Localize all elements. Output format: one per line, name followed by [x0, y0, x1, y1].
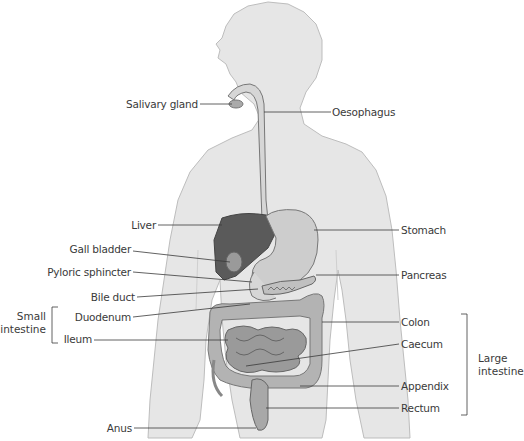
- label-pyloric-sphincter: Pyloric sphincter: [47, 266, 131, 278]
- group-small-intestine: Small intestine: [0, 310, 46, 336]
- label-gall-bladder: Gall bladder: [70, 243, 131, 255]
- label-colon: Colon: [401, 316, 430, 328]
- label-ileum: Ileum: [64, 333, 92, 345]
- group-small-intestine-line1: Small: [0, 310, 46, 323]
- label-rectum: Rectum: [401, 402, 440, 414]
- label-duodenum: Duodenum: [75, 311, 131, 323]
- label-bile-duct: Bile duct: [91, 291, 135, 303]
- group-small-intestine-line2: intestine: [0, 323, 46, 336]
- label-liver: Liver: [131, 219, 156, 231]
- label-oesophagus: Oesophagus: [332, 106, 395, 118]
- label-anus: Anus: [107, 422, 132, 434]
- group-large-intestine-line1: Large: [478, 352, 524, 365]
- label-appendix: Appendix: [401, 380, 449, 392]
- label-pancreas: Pancreas: [401, 269, 447, 281]
- group-large-intestine: Large intestine: [478, 352, 524, 378]
- small-intestine-shape: [225, 326, 306, 373]
- label-stomach: Stomach: [401, 224, 446, 236]
- group-large-intestine-line2: intestine: [478, 365, 524, 378]
- label-salivary-gland: Salivary gland: [126, 98, 198, 110]
- label-caecum: Caecum: [401, 338, 443, 350]
